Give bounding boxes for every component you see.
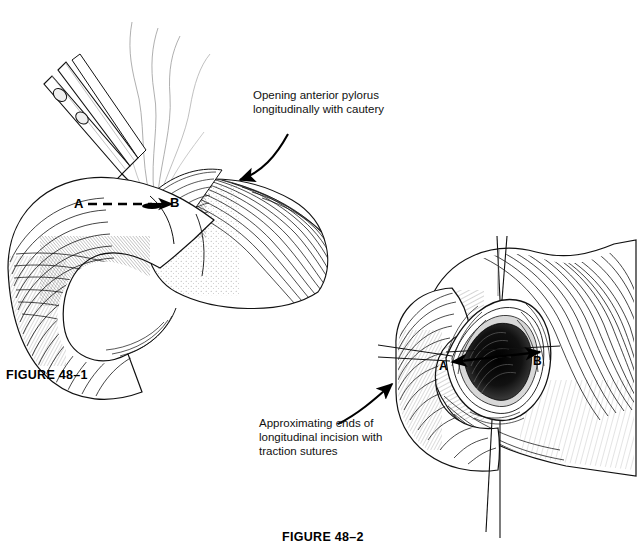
cautery-leader-arrow xyxy=(240,134,288,180)
marker-b-48-1: B xyxy=(170,195,179,210)
traction-annotation-line1: Approximating ends of xyxy=(259,416,373,430)
traction-annotation-line2: longitudinal incision with xyxy=(259,430,382,444)
cautery-annotation-line1: Opening anterior pylorus xyxy=(253,88,379,102)
marker-b-48-2: B xyxy=(533,354,542,368)
traction-annotation-line3: traction sutures xyxy=(259,444,338,458)
surgical-illustration xyxy=(0,0,640,560)
illustration-page: Opening anterior pylorus longitudinally … xyxy=(0,0,640,560)
figure-48-1-artwork xyxy=(6,22,342,399)
figure-48-2-caption: FIGURE 48–2 xyxy=(282,530,364,544)
marker-a-48-2: A xyxy=(439,359,448,373)
figure-48-1-caption: FIGURE 48–1 xyxy=(6,368,88,382)
marker-a-48-1: A xyxy=(74,196,83,211)
cautery-annotation-line2: longitudinally with cautery xyxy=(253,102,384,116)
figure-48-2-artwork xyxy=(338,236,640,538)
